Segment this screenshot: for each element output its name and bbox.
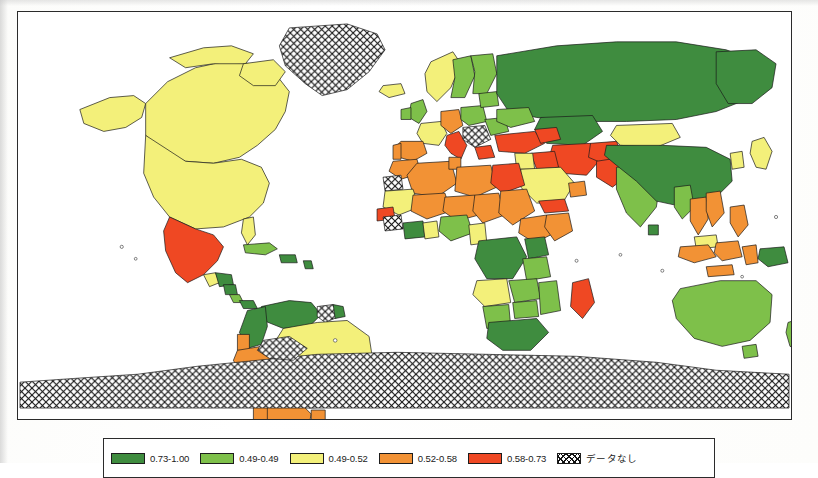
legend-label-0: 0.73-1.00: [150, 453, 189, 464]
region-tasmania: [742, 344, 758, 358]
region-tanzania: [523, 257, 551, 281]
region-ghana: [423, 221, 439, 239]
region-greece: [475, 145, 495, 159]
region-ivory-coast: [403, 221, 425, 239]
legend-label-1: 0.49-0.49: [239, 453, 278, 464]
legend-item-1: 0.49-0.49: [200, 453, 289, 464]
region-hispaniola: [279, 255, 297, 263]
legend-swatch-red: [468, 453, 502, 464]
world-map-canvas: [18, 12, 791, 419]
legend-row: 0.73-1.00 0.49-0.49 0.49-0.52 0.52-0.58 …: [104, 439, 714, 477]
legend-label-3: 0.52-0.58: [418, 453, 457, 464]
region-indonesia-java: [706, 265, 734, 277]
page-top-edge-shadow: [0, 0, 818, 6]
region-western-sahara-nodata: [383, 175, 403, 191]
legend-swatch-dark-green: [111, 453, 145, 464]
legend-item-3: 0.52-0.58: [379, 453, 468, 464]
region-nicaragua: [223, 285, 237, 295]
region-suriname: [333, 305, 345, 319]
region-baltics: [479, 92, 499, 108]
world-map-frame: [17, 11, 792, 420]
region-oman: [569, 181, 587, 197]
legend-swatch-orange: [379, 453, 413, 464]
legend-swatch-no-data-hatched: [557, 453, 581, 464]
map-legend: 0.73-1.00 0.49-0.49 0.49-0.52 0.52-0.58 …: [103, 438, 715, 478]
region-mozambique: [539, 281, 561, 315]
world-map-svg: [18, 12, 791, 419]
legend-label-no-data: データなし: [586, 451, 637, 465]
legend-swatch-yellow: [290, 453, 324, 464]
legend-label-2: 0.49-0.52: [329, 453, 368, 464]
region-kenya: [525, 237, 549, 259]
legend-label-4: 0.58-0.73: [507, 453, 546, 464]
legend-item-4: 0.58-0.73: [468, 453, 557, 464]
region-korea: [730, 151, 744, 169]
legend-item-no-data: データなし: [557, 451, 637, 465]
legend-item-0: 0.73-1.00: [111, 453, 200, 464]
region-lesser-antilles: [303, 261, 313, 269]
legend-swatch-light-green: [200, 453, 234, 464]
region-ireland: [401, 108, 411, 120]
region-ecuador: [237, 334, 249, 350]
legend-item-2: 0.49-0.52: [290, 453, 379, 464]
page-left-edge-shadow: [0, 0, 8, 463]
region-sri-lanka: [648, 225, 658, 235]
region-zimbabwe: [513, 301, 539, 319]
region-portugal: [393, 143, 401, 159]
region-uruguay: [311, 410, 325, 419]
region-zambia: [509, 279, 541, 303]
region-poland: [461, 106, 487, 126]
region-guinea-nodata: [383, 215, 403, 231]
